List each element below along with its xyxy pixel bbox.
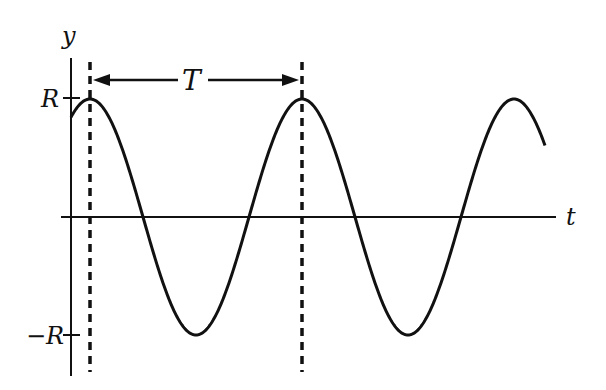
sine-wave-diagram: y t R −R T: [0, 0, 606, 390]
x-axis-label: t: [566, 205, 576, 229]
arrowhead-right-icon: [282, 74, 299, 86]
y-axis-label: y: [62, 24, 76, 48]
amplitude-label-neg: −R: [26, 324, 64, 348]
plot-canvas: [0, 0, 606, 390]
arrowhead-left-icon: [93, 74, 110, 86]
amplitude-label-pos: R: [41, 87, 59, 111]
period-label: T: [182, 67, 201, 95]
